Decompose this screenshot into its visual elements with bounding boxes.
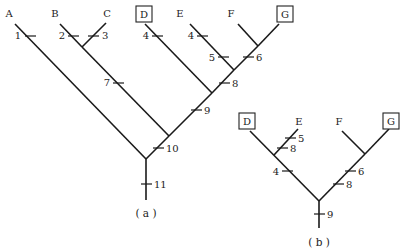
- branch-de: [250, 131, 319, 201]
- tree-b: D E F G 5 8 4 6 8 9 ( b ): [239, 113, 399, 248]
- taxon-c-label: C: [103, 8, 111, 19]
- char-4-e-label: 4: [188, 30, 194, 41]
- branch-efg: [212, 70, 234, 93]
- branch-g-b: [365, 129, 389, 154]
- branch-e: [190, 24, 234, 70]
- char-3-label: 3: [102, 30, 108, 41]
- taxon-b-label: B: [51, 8, 58, 19]
- taxon-d-label-b: D: [243, 116, 251, 127]
- branch-g: [258, 24, 279, 46]
- char-9-label: 9: [204, 105, 210, 116]
- taxon-g-label: G: [281, 9, 289, 20]
- branch-fg: [234, 46, 258, 70]
- char-b-5-label: 5: [298, 133, 304, 144]
- char-4-d-label: 4: [143, 30, 149, 41]
- taxon-g-label-b: G: [387, 116, 395, 127]
- char-b-8-e-label: 8: [290, 143, 296, 154]
- char-10-label: 10: [166, 143, 179, 154]
- tree-a-caption: ( a ): [135, 207, 156, 219]
- branch-bc: [82, 47, 169, 136]
- branch-f: [238, 24, 258, 46]
- char-5-label: 5: [209, 52, 215, 63]
- char-b-9-label: 9: [327, 209, 333, 220]
- char-11-label: 11: [154, 179, 167, 190]
- char-1-label: 1: [15, 30, 21, 41]
- char-b-4-label: 4: [273, 166, 279, 177]
- char-b-8-fg-label: 8: [346, 179, 352, 190]
- branch-fg-b: [319, 154, 365, 201]
- taxon-a-label: A: [4, 8, 13, 19]
- tree-b-caption: ( b ): [308, 236, 330, 248]
- char-7-label: 7: [104, 77, 110, 88]
- char-2-label: 2: [59, 30, 65, 41]
- taxon-d-label: D: [140, 9, 148, 20]
- cladogram-figure: A B C D E F G 1 2 3 7 4 4 5 6 8 9 10 11: [0, 0, 407, 252]
- char-6-label: 6: [256, 52, 262, 63]
- branch-f-b: [342, 131, 365, 154]
- taxon-e-label-b: E: [295, 116, 302, 127]
- char-8-label: 8: [232, 78, 238, 89]
- taxon-f-label: F: [228, 8, 235, 19]
- taxon-e-label: E: [176, 8, 183, 19]
- taxon-f-label-b: F: [336, 116, 343, 127]
- char-b-6-label: 6: [358, 166, 364, 177]
- branch-d: [145, 24, 212, 93]
